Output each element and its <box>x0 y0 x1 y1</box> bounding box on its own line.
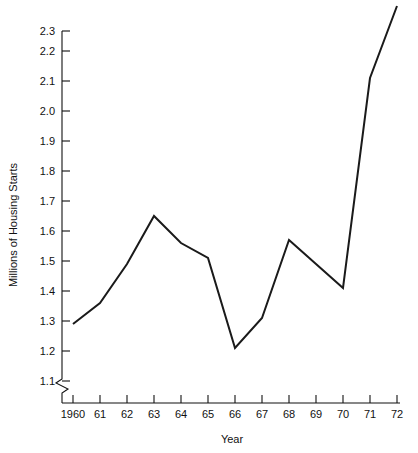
x-tick-label: 61 <box>94 408 106 420</box>
x-tick-label: 66 <box>229 408 241 420</box>
y-tick-label: 1.3 <box>40 315 55 327</box>
x-axis-tick-labels: 1960 61 62 63 64 65 66 67 68 69 70 71 72 <box>61 408 403 420</box>
x-tick-label: 67 <box>256 408 268 420</box>
y-axis-tick-labels: 1.1 1.2 1.3 1.4 1.5 1.6 1.7 1.8 1.9 2.0 … <box>40 25 55 387</box>
y-tick-label: 1.1 <box>40 375 55 387</box>
x-tick-label: 72 <box>391 408 403 420</box>
y-tick-label: 1.5 <box>40 255 55 267</box>
x-tick-label: 68 <box>283 408 295 420</box>
x-axis-title: Year <box>221 433 244 445</box>
y-tick-label: 1.8 <box>40 165 55 177</box>
data-series-line <box>73 6 397 348</box>
y-axis-title: Millions of Housing Starts <box>7 162 19 287</box>
x-tick-label: 71 <box>364 408 376 420</box>
chart-page: Millions of Housing Starts 1.1 1.2 <box>0 0 418 453</box>
x-tick-label: 65 <box>202 408 214 420</box>
y-tick-label: 2.3 <box>40 25 55 37</box>
y-axis-break-icon <box>56 371 68 403</box>
y-tick-label: 1.9 <box>40 135 55 147</box>
y-tick-label: 1.2 <box>40 345 55 357</box>
x-axis-ticks <box>73 395 397 403</box>
y-tick-label: 1.4 <box>40 285 55 297</box>
x-tick-label: 69 <box>310 408 322 420</box>
x-tick-label: 62 <box>121 408 133 420</box>
housing-starts-line-chart: Millions of Housing Starts 1.1 1.2 <box>0 0 418 453</box>
y-tick-label: 2.0 <box>40 105 55 117</box>
y-axis-ticks <box>62 31 70 381</box>
y-tick-label: 2.2 <box>40 45 55 57</box>
y-tick-label: 2.1 <box>40 75 55 87</box>
x-tick-label: 63 <box>148 408 160 420</box>
x-tick-label: 1960 <box>61 408 85 420</box>
x-tick-label: 70 <box>337 408 349 420</box>
y-tick-label: 1.7 <box>40 195 55 207</box>
y-tick-label: 1.6 <box>40 225 55 237</box>
x-tick-label: 64 <box>175 408 187 420</box>
